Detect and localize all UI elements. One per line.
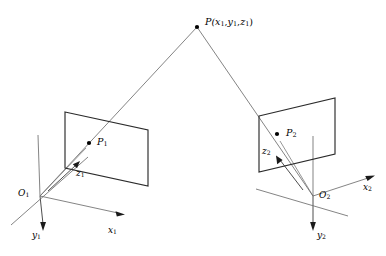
right-image-point-label-sub: 2 <box>292 131 296 139</box>
left-coordinate-frame <box>11 135 125 231</box>
scene-point-label: P(x1,y1,z1) <box>205 17 253 27</box>
left-z-axis-label: z1 <box>76 169 85 178</box>
right-z-axis-label: z2 <box>262 147 271 156</box>
left-y-axis-upper <box>38 135 40 196</box>
scene-point-dot <box>195 25 199 29</box>
right-image-plane <box>259 98 335 172</box>
left-origin-label: O1 <box>18 189 29 198</box>
right-z-axis-arrowhead <box>276 156 283 165</box>
right-x-axis-label: x2 <box>363 183 372 192</box>
figure-canvas: P(x1,y1,z1) P1 P2 O1 O2 x1 y1 z1 x2 y2 z… <box>0 0 386 256</box>
left-x-axis <box>40 196 118 213</box>
right-x-axis-label-sub: 2 <box>368 185 372 192</box>
scene-point-label-p: P( <box>205 16 215 27</box>
right-y-axis-label: y2 <box>317 231 326 240</box>
left-image-point-label: P1 <box>97 137 108 147</box>
right-image-point-label: P2 <box>286 128 297 138</box>
right-origin-label-sub: 2 <box>326 193 330 200</box>
left-x-axis-label: x1 <box>108 226 117 235</box>
right-x-axis-arrowhead <box>365 176 375 181</box>
right-z-axis-label-sub: 2 <box>267 149 271 156</box>
ray-to-right-camera <box>197 27 313 196</box>
right-origin-label: O2 <box>319 191 330 200</box>
left-y-axis <box>40 196 43 224</box>
scene-point-label-paren-close: ) <box>249 16 253 27</box>
diagram-svg <box>0 0 386 256</box>
right-y-axis-label-sub: 2 <box>322 233 326 240</box>
ray-right-secondary <box>280 141 313 196</box>
left-image-point-label-sub: 1 <box>103 140 107 148</box>
left-y-axis-arrowhead <box>40 222 46 231</box>
left-x-axis-arrowhead <box>116 211 126 216</box>
left-z-axis-label-sub: 1 <box>81 171 85 178</box>
right-y-axis-arrowhead <box>310 222 316 231</box>
marked-points <box>87 25 279 145</box>
left-y-axis-label-sub: 1 <box>37 233 41 240</box>
right-image-point-dot <box>275 132 279 136</box>
left-image-point-dot <box>87 141 91 145</box>
right-coordinate-frame <box>256 136 375 231</box>
left-origin-label-sub: 1 <box>25 191 29 198</box>
right-depth-axis <box>256 189 348 216</box>
left-y-axis-label: y1 <box>32 231 41 240</box>
left-x-axis-label-sub: 1 <box>113 228 117 235</box>
ray-to-left-camera <box>40 27 197 196</box>
